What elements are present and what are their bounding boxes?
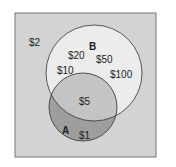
b-item: $50 (96, 54, 113, 65)
b-item: $100 (110, 69, 133, 80)
set-b-name: B (89, 41, 96, 52)
intersection-item: $5 (79, 96, 91, 107)
b-item: $20 (68, 50, 85, 61)
universe-label: $2 (29, 37, 41, 48)
b-item: $10 (57, 65, 74, 76)
venn-diagram: $2 B $20 $50 $10 $100 $5 A $1 (0, 0, 176, 167)
set-a-name: A (62, 125, 69, 136)
a-item: $1 (79, 130, 91, 141)
